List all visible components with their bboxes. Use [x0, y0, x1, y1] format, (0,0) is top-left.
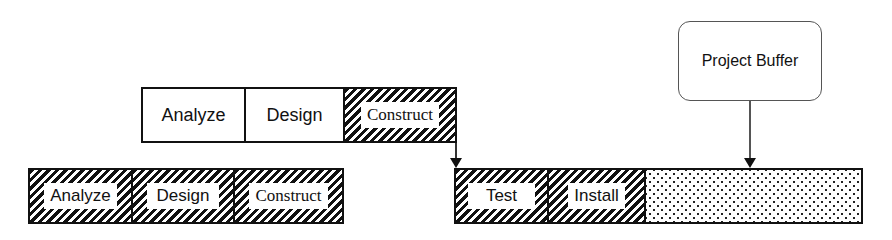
project-buffer-callout: Project Buffer [678, 21, 822, 101]
task-install: Install [547, 170, 644, 222]
task-label: Analyze [44, 183, 116, 209]
arrow-down-icon [450, 158, 462, 168]
task-label: Design [266, 105, 322, 125]
task-design-top: Design [244, 89, 343, 141]
task-construct-bottom: Construct [233, 170, 342, 222]
task-label: Analyze [161, 105, 225, 125]
bottom-right-task-chain: Test Install [454, 168, 863, 224]
task-analyze-top: Analyze [143, 89, 244, 141]
task-label: Test [468, 183, 535, 209]
bottom-left-task-chain: Analyze Design Construct [28, 168, 344, 224]
callout-pointer-line [749, 101, 751, 159]
arrow-down-icon [744, 158, 756, 168]
task-label: Design [147, 183, 220, 209]
dependency-line [455, 143, 457, 159]
task-label: Construct [361, 102, 439, 128]
task-test: Test [456, 170, 547, 222]
task-label: Install [568, 183, 624, 209]
project-buffer-bar [644, 170, 861, 222]
task-design-bottom: Design [131, 170, 233, 222]
top-task-chain: Analyze Design Construct [141, 87, 457, 143]
task-analyze-bottom: Analyze [30, 170, 131, 222]
callout-label: Project Buffer [702, 52, 799, 70]
task-label: Construct [249, 183, 327, 209]
task-construct-top: Construct [343, 89, 455, 141]
